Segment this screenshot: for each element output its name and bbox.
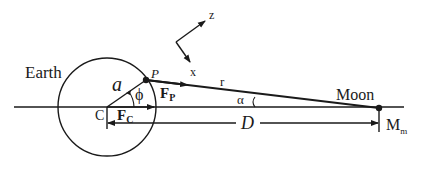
angle-phi-label: ϕ [135,86,143,104]
distance-d-label: D [240,113,254,133]
earth-label: Earth [25,63,62,82]
earth-moon-tidal-diagram: Earth Moon C P a ϕ α r D FP FC Mm z x [0,0,423,170]
angle-alpha-arc [253,97,255,107]
moon-label: Moon [336,86,374,103]
axis-z-label: z [209,8,214,22]
force-c-label: FC [117,107,133,125]
axis-x-label: x [190,65,196,79]
center-label: C [95,108,104,123]
axis-z-arrow [176,21,205,42]
point-p-label: P [150,66,159,81]
force-p-label: FP [160,85,175,103]
moon-mass-label: Mm [386,116,407,136]
radius-label: a [112,73,122,95]
angle-alpha-label: α [237,92,244,107]
axis-x-arrow [176,42,190,62]
point-p-dot [143,77,149,83]
distance-r-label: r [220,74,225,89]
